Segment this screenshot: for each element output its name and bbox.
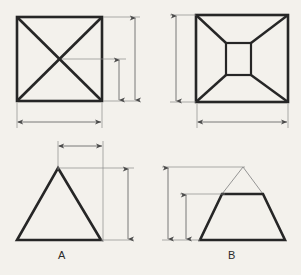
figure-label-a: A bbox=[58, 249, 66, 261]
figure-label-b: B bbox=[228, 249, 236, 261]
drawing-background bbox=[0, 0, 301, 275]
technical-drawing-canvas: A B bbox=[0, 0, 301, 275]
